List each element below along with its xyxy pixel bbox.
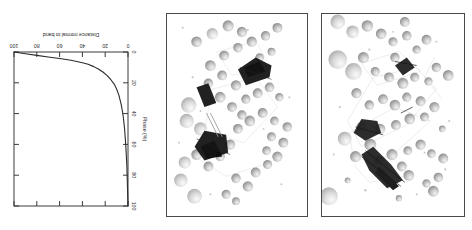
y-tick-label: 0 — [131, 51, 137, 54]
simulation-panel-left — [321, 13, 465, 217]
y-axis-ticks — [14, 52, 128, 206]
y-tick-label: 60 — [131, 142, 137, 148]
x-tick-label: 60 — [57, 43, 63, 49]
y-axis-title: Phase (%) — [142, 117, 148, 141]
y-tick-labels: 0 20 40 60 80 100 — [131, 51, 137, 211]
simulation-canvas-middle — [167, 14, 307, 216]
y-tick-label: 80 — [131, 172, 137, 178]
simulation-canvas-left — [322, 14, 464, 216]
figure-root: 0 20 40 60 80 100 0 20 40 60 80 100 Dist… — [0, 0, 472, 230]
y-tick-label: 40 — [131, 111, 137, 117]
x-axis-title: Distance normal to band — [43, 32, 99, 38]
y-tick-label: 100 — [131, 202, 137, 211]
data-series-line — [14, 52, 128, 206]
x-tick-label: 80 — [34, 43, 40, 49]
x-tick-label: 100 — [10, 43, 19, 49]
y-tick-label: 20 — [131, 80, 137, 86]
x-axis-ticks — [14, 52, 128, 206]
x-tick-label: 20 — [102, 43, 108, 49]
x-tick-label: 40 — [79, 43, 85, 49]
x-tick-labels: 0 20 40 60 80 100 — [10, 43, 130, 49]
x-tick-label: 0 — [126, 43, 129, 49]
phase-distance-plot-panel: 0 20 40 60 80 100 0 20 40 60 80 100 Dist… — [6, 10, 154, 220]
phase-distance-plot: 0 20 40 60 80 100 0 20 40 60 80 100 Dist… — [6, 10, 154, 220]
simulation-panel-middle — [166, 13, 308, 217]
plot-frame — [14, 52, 128, 206]
